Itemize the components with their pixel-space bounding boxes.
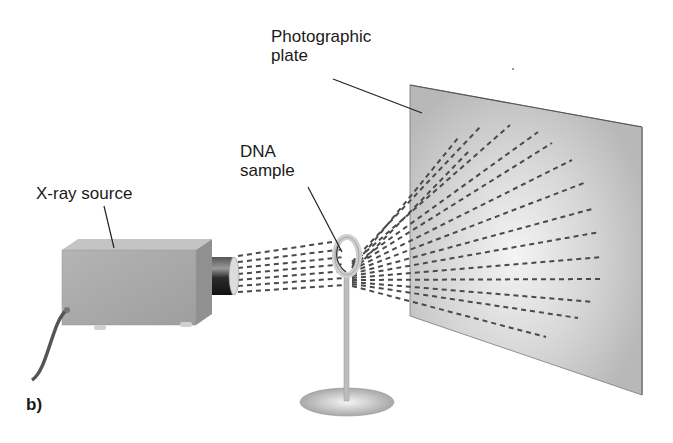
label-dna-sample-line2: sample <box>240 161 295 180</box>
xray-source-box <box>32 239 212 380</box>
sample-stand <box>300 273 394 416</box>
dna-sample-holder <box>335 237 359 275</box>
leader-line-plate <box>333 79 422 113</box>
diagram-canvas <box>0 0 673 443</box>
label-photographic-plate: Photographic plate <box>271 27 371 65</box>
label-xray-source: X-ray source <box>36 184 132 203</box>
leader-line-sample <box>308 187 342 252</box>
label-dna-sample-line1: DNA <box>240 142 295 161</box>
label-dna-sample: DNA sample <box>240 142 295 180</box>
photographic-plate <box>410 85 642 395</box>
label-photographic-plate-line2: plate <box>271 46 371 65</box>
speck <box>512 68 514 70</box>
label-photographic-plate-line1: Photographic <box>271 27 371 46</box>
diffraction-diagram: Photographic plate DNA sample X-ray sour… <box>0 0 673 443</box>
incident-beam <box>238 240 345 292</box>
panel-label: b) <box>26 395 42 415</box>
